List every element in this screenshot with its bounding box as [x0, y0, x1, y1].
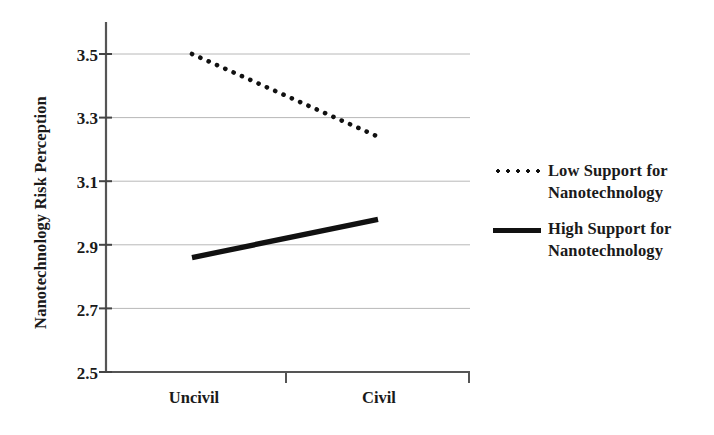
- y-tick-label-2.7: 2.7: [54, 302, 98, 319]
- legend-item-low-support: Low Support for Nanotechnology: [490, 160, 714, 206]
- y-tick-label-2.9: 2.9: [54, 239, 98, 256]
- legend-label-low-support-line2: Nanotechnology: [548, 182, 714, 204]
- y-tick-label-3.1: 3.1: [54, 174, 98, 191]
- y-axis-tick-labels: 3.5 3.3 3.1 2.9 2.7 2.5: [52, 0, 98, 435]
- legend-label-high-support-line2: Nanotechnology: [548, 240, 714, 262]
- x-tick-label-uncivil: Uncivil: [169, 390, 219, 407]
- legend-key-dotted-icon: [493, 169, 541, 173]
- x-tick-label-civil: Civil: [362, 390, 396, 407]
- x-axis-ticks: [286, 372, 469, 383]
- gridlines: [105, 54, 470, 308]
- legend-label-high-support: High Support for Nanotechnology: [548, 218, 714, 262]
- chart-legend: Low Support for Nanotechnology High Supp…: [490, 160, 714, 276]
- series-line-high-support: [192, 219, 378, 257]
- chart-figure: Nanotechnology Risk Perception 3.5 3.3 3…: [0, 0, 714, 435]
- series-line-low-support: [192, 54, 378, 137]
- y-tick-label-2.5: 2.5: [54, 365, 98, 382]
- y-tick-label-3.5: 3.5: [54, 47, 98, 64]
- legend-item-high-support: High Support for Nanotechnology: [490, 218, 714, 264]
- y-tick-label-3.3: 3.3: [54, 110, 98, 127]
- legend-key-solid-icon: [493, 228, 541, 233]
- legend-label-high-support-line1: High Support for: [548, 218, 714, 240]
- legend-label-low-support-line1: Low Support for: [548, 160, 714, 182]
- legend-label-low-support: Low Support for Nanotechnology: [548, 160, 714, 204]
